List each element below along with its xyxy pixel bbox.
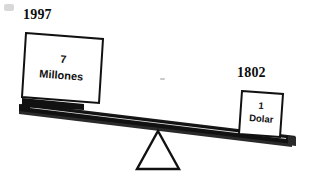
left-block: 7 Millones: [22, 33, 103, 110]
scan-smudge: [4, 4, 14, 11]
balance-scale-figure: 7 Millones 1997 1 Dolar 1802: [0, 0, 309, 181]
right-block-unit: Dolar: [249, 112, 274, 125]
left-year-label: 1997: [23, 7, 52, 22]
right-year-label: 1802: [237, 65, 266, 80]
right-block: 1 Dolar: [239, 91, 283, 137]
beam-right-cap: [288, 136, 296, 146]
balance-scale-drawing: 7 Millones 1997 1 Dolar 1802: [0, 0, 309, 181]
scan-speck: [160, 78, 165, 80]
left-block-face: [22, 33, 103, 103]
fulcrum-triangle: [137, 131, 179, 169]
left-block-amount: 7: [60, 53, 67, 65]
